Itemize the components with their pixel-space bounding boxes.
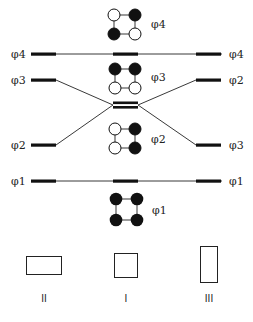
left-label-phi1: φ1 xyxy=(11,175,26,188)
orbital-label-phi2: φ2 xyxy=(151,133,166,146)
orbital-phi1: φ1 xyxy=(110,193,167,227)
level-phi1: φ1 φ1 xyxy=(11,175,244,188)
orbital-phi4: φ4 xyxy=(108,9,166,40)
shape-III: III xyxy=(201,247,218,305)
shape-label-III: III xyxy=(205,293,213,304)
degenerate-level-bottom xyxy=(113,106,138,109)
right-label-phi4: φ4 xyxy=(229,48,244,61)
level-crossing: φ3 φ2 φ2 φ3 xyxy=(11,74,244,152)
orbital-label-phi4: φ4 xyxy=(151,18,166,31)
orbital-label-phi1: φ1 xyxy=(152,204,167,217)
orbital-phi2: φ2 xyxy=(109,123,166,154)
shape-label-I: I xyxy=(125,293,128,304)
level-phi4: φ4 φ4 xyxy=(11,48,244,61)
degenerate-level-top xyxy=(113,102,138,105)
shape-I: I xyxy=(115,254,138,305)
right-label-phi3: φ3 xyxy=(229,139,244,152)
shape-II: II xyxy=(27,257,62,305)
right-label-phi2: φ2 xyxy=(229,74,244,87)
orbital-phi3: φ3 xyxy=(109,63,166,94)
shape-label-II: II xyxy=(41,293,47,304)
orbital-label-phi3: φ3 xyxy=(151,71,166,84)
correlation-diagram: φ4 φ4 φ3 φ2 φ2 φ3 φ1 φ1 φ4 xyxy=(0,0,253,322)
right-label-phi1: φ1 xyxy=(229,175,244,188)
left-label-phi2: φ2 xyxy=(11,139,26,152)
left-label-phi3: φ3 xyxy=(11,74,26,87)
left-label-phi4: φ4 xyxy=(11,48,26,61)
